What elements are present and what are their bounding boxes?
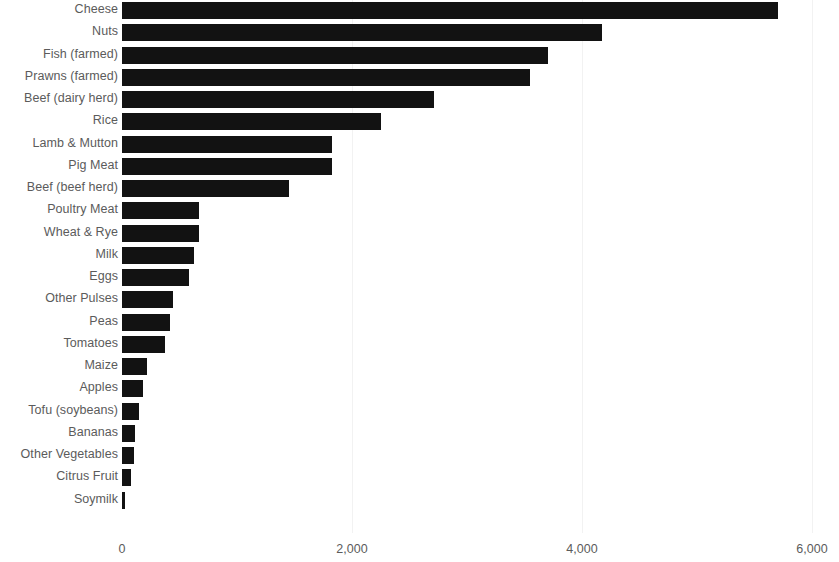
bar	[122, 492, 125, 509]
y-axis-label: Beef (dairy herd)	[0, 92, 118, 105]
y-axis-label: Tomatoes	[0, 337, 118, 350]
y-axis-label: Milk	[0, 248, 118, 261]
x-axis-tick-label: 0	[119, 542, 126, 556]
bar	[122, 291, 173, 308]
bar	[122, 358, 147, 375]
bar	[122, 69, 530, 86]
bar	[122, 469, 131, 486]
bar	[122, 247, 194, 264]
bar	[122, 314, 170, 331]
y-axis-label: Soymilk	[0, 493, 118, 506]
bar	[122, 158, 332, 175]
y-axis-label: Pig Meat	[0, 159, 118, 172]
bar	[122, 113, 381, 130]
bar	[122, 136, 332, 153]
y-axis-label: Eggs	[0, 270, 118, 283]
x-axis-tick-label: 4,000	[566, 542, 597, 556]
y-axis-label: Tofu (soybeans)	[0, 404, 118, 417]
y-axis-label: Other Pulses	[0, 292, 118, 305]
y-axis-label: Peas	[0, 315, 118, 328]
bar	[122, 47, 548, 64]
y-axis-label: Bananas	[0, 426, 118, 439]
bar	[122, 336, 165, 353]
bar	[122, 225, 199, 242]
y-axis-label: Apples	[0, 381, 118, 394]
gridline-4000	[582, 0, 583, 533]
bar	[122, 269, 189, 286]
bar	[122, 447, 134, 464]
y-axis-label: Maize	[0, 359, 118, 372]
gridline-6000	[812, 0, 813, 533]
y-axis-label: Other Vegetables	[0, 448, 118, 461]
y-axis-label: Citrus Fruit	[0, 470, 118, 483]
y-axis-label: Prawns (farmed)	[0, 70, 118, 83]
bar	[122, 2, 778, 19]
y-axis-label: Nuts	[0, 25, 118, 38]
bar	[122, 24, 602, 41]
bar	[122, 403, 139, 420]
bar	[122, 91, 434, 108]
y-axis-label: Poultry Meat	[0, 203, 118, 216]
y-axis-label: Beef (beef herd)	[0, 181, 118, 194]
x-axis-tick-label: 2,000	[336, 542, 367, 556]
y-axis-label: Rice	[0, 114, 118, 127]
bar	[122, 180, 289, 197]
y-axis-category-labels: CheeseNutsFish (farmed)Prawns (farmed)Be…	[0, 0, 118, 533]
y-axis-label: Fish (farmed)	[0, 48, 118, 61]
y-axis-label: Wheat & Rye	[0, 226, 118, 239]
plot-area	[122, 0, 812, 533]
bar	[122, 425, 135, 442]
bar-chart: CheeseNutsFish (farmed)Prawns (farmed)Be…	[0, 0, 839, 562]
bar	[122, 380, 143, 397]
x-axis-tick-label: 6,000	[796, 542, 827, 556]
x-axis-tick-labels: 02,0004,0006,000	[0, 533, 839, 562]
y-axis-label: Cheese	[0, 3, 118, 16]
y-axis-label: Lamb & Mutton	[0, 137, 118, 150]
bar	[122, 202, 199, 219]
